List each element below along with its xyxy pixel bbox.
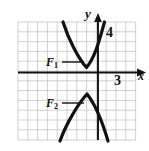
hyperbola-figure: y x 4 3 F1 F2 <box>0 0 149 151</box>
y-axis-arrow-icon <box>94 13 102 22</box>
focus-label-f2-base: F <box>46 96 54 110</box>
focus-label-f1-subscript: 1 <box>54 61 58 70</box>
focus-label-f1-base: F <box>46 55 54 69</box>
x-axis-tick-label: 3 <box>114 74 121 88</box>
focus-label-f2: F2 <box>46 97 58 111</box>
focus-label-f1: F1 <box>46 56 58 70</box>
y-axis-tick-label: 4 <box>106 26 113 40</box>
x-axis-label: x <box>138 70 144 82</box>
focus-label-f2-subscript: 2 <box>54 102 58 111</box>
plot-canvas <box>0 0 149 151</box>
y-axis-label: y <box>85 7 91 20</box>
